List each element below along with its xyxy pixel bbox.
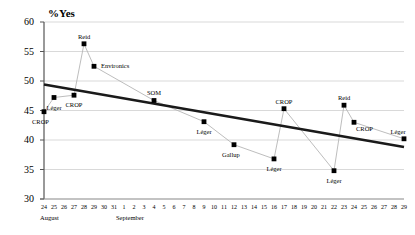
y-axis-title: %Yes — [48, 8, 75, 19]
y-axis-tick-label: 55 — [12, 47, 34, 57]
y-axis-tick-label: 30 — [12, 194, 34, 204]
y-axis-tick-label: 40 — [12, 135, 34, 145]
data-point-marker[interactable] — [92, 64, 97, 69]
data-point-label: CROP — [66, 101, 83, 108]
x-axis-month-label: September — [116, 214, 144, 221]
data-point-label: Léger — [197, 128, 212, 135]
data-point-label: Léger — [47, 104, 62, 111]
data-point-marker[interactable] — [232, 142, 237, 147]
y-axis-tick-label: 60 — [12, 17, 34, 27]
y-axis-tick-label: 45 — [12, 106, 34, 116]
data-point-label: CROP — [356, 125, 373, 132]
data-point-marker[interactable] — [272, 157, 277, 162]
poll-trend-chart: 6055504540353024252627282930311234567891… — [0, 0, 415, 235]
data-point-label: Reid — [78, 33, 90, 40]
data-point-marker[interactable] — [72, 93, 77, 98]
data-point-label: SOM — [147, 89, 161, 96]
data-point-marker[interactable] — [82, 41, 87, 46]
data-point-marker[interactable] — [352, 120, 357, 125]
data-point-label: CROP — [32, 118, 49, 125]
data-point-label: Léger — [391, 128, 406, 135]
y-axis-tick-label: 50 — [12, 76, 34, 86]
data-point-label: Léger — [327, 177, 342, 184]
data-point-marker[interactable] — [342, 103, 347, 108]
data-point-marker[interactable] — [152, 98, 157, 103]
x-axis-month-label: August — [40, 214, 59, 221]
data-point-label: CROP — [276, 98, 293, 105]
data-point-label: Léger — [267, 165, 282, 172]
data-point-label: Environics — [101, 62, 129, 69]
data-point-marker[interactable] — [52, 95, 57, 100]
y-axis-tick-label: 35 — [12, 165, 34, 175]
chart-canvas — [0, 0, 415, 235]
data-point-label: Gallup — [222, 151, 240, 158]
data-point-marker[interactable] — [202, 119, 207, 124]
data-point-marker[interactable] — [332, 168, 337, 173]
data-point-marker[interactable] — [282, 106, 287, 111]
x-axis-tick-label: 29 — [398, 204, 410, 210]
data-point-label: Reid — [338, 94, 350, 101]
data-point-marker[interactable] — [402, 136, 407, 141]
